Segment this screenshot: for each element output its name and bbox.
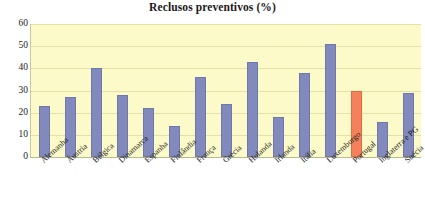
bar (299, 73, 310, 157)
y-tick-label: 20 (4, 108, 28, 117)
bar (247, 62, 258, 157)
y-tick-label: 50 (4, 41, 28, 50)
gridline (31, 46, 421, 47)
bar (91, 68, 102, 157)
y-tick-label: 10 (4, 130, 28, 139)
y-tick-label: 30 (4, 86, 28, 95)
bar-chart: Reclusos preventivos (%) 0102030405060 A… (0, 0, 425, 218)
chart-title: Reclusos preventivos (%) (0, 1, 425, 13)
gridline (31, 91, 421, 92)
plot-area (30, 24, 421, 157)
gridline (31, 68, 421, 69)
bar (65, 97, 76, 157)
y-tick-label: 60 (4, 19, 28, 28)
bar (351, 91, 362, 158)
y-tick-label: 40 (4, 63, 28, 72)
x-axis-labels: AlemanhaÁustriaBélgicaDinamarcaEspanhaFi… (0, 158, 425, 218)
bar (325, 44, 336, 157)
gridline (31, 24, 421, 25)
bar (117, 95, 128, 157)
